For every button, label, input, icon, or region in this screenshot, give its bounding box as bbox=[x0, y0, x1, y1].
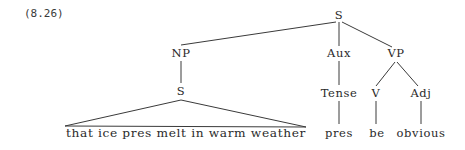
edge-s-np bbox=[181, 22, 336, 45]
node-adj: Adj bbox=[409, 86, 431, 100]
node-np: NP bbox=[171, 46, 190, 60]
edge-s-vp bbox=[342, 22, 392, 47]
leaf-obvious: obvious bbox=[397, 126, 446, 140]
syntax-tree-diagram: (8.26) S NP S Aux Tense VP V Adj that ic… bbox=[0, 0, 465, 150]
node-vp: VP bbox=[386, 46, 404, 60]
edge-vp-v bbox=[376, 62, 395, 86]
node-tense: Tense bbox=[321, 86, 358, 100]
leaf-be: be bbox=[369, 126, 384, 140]
leaf-embedded-clause: that ice pres melt in warm weather bbox=[66, 126, 306, 140]
leaf-pres: pres bbox=[325, 126, 353, 140]
triangle-embedded-clause bbox=[65, 100, 306, 127]
example-number: (8.26) bbox=[24, 7, 64, 20]
node-aux: Aux bbox=[326, 46, 351, 60]
node-s-embedded: S bbox=[177, 84, 185, 98]
node-s-root: S bbox=[335, 8, 343, 22]
node-v: V bbox=[371, 86, 381, 100]
edge-vp-adj bbox=[397, 62, 418, 86]
